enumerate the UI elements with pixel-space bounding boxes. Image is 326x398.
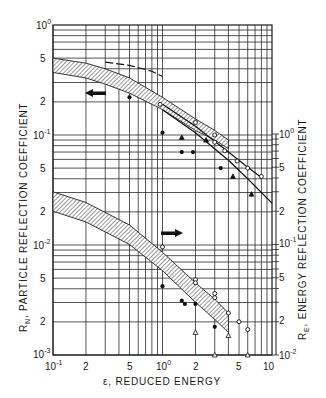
svg-text:5: 5: [279, 272, 285, 283]
open-circle-marker: [213, 133, 217, 137]
svg-text:100: 100: [156, 359, 171, 372]
triangle-marker: [226, 333, 231, 338]
filled-circle-marker: [213, 325, 217, 329]
open-circle-marker: [158, 102, 162, 106]
open-circle-marker: [246, 328, 250, 332]
svg-text:10-3: 10-3: [33, 347, 50, 360]
open-circle-marker: [213, 296, 217, 300]
arrow-right-icon: [161, 229, 183, 237]
right-axis-title: RE, ENERGY REFLECTION COEFFICIENT: [297, 119, 310, 340]
svg-text:2: 2: [279, 315, 285, 326]
svg-text:10: 10: [263, 361, 275, 372]
filled-circle-marker: [193, 302, 197, 306]
shaded-bands: [53, 58, 228, 332]
filled-circle-marker: [219, 166, 223, 170]
svg-text:100: 100: [36, 18, 51, 31]
theory-curve: [163, 110, 273, 204]
open-circle-marker: [226, 311, 230, 315]
triangle-marker: [193, 330, 198, 335]
svg-text:5: 5: [127, 361, 133, 372]
svg-text:10-1: 10-1: [279, 236, 296, 249]
open-circle-marker: [161, 245, 165, 249]
open-circle-marker: [259, 174, 263, 178]
svg-text:2: 2: [40, 206, 46, 217]
filled-circle-marker: [127, 95, 131, 99]
filled-circle-marker: [160, 284, 164, 288]
svg-text:2: 2: [83, 361, 89, 372]
svg-text:5: 5: [40, 53, 46, 64]
filled-circle-marker: [191, 150, 195, 154]
filled-circle-marker: [180, 150, 184, 154]
x-axis-title: ε, REDUCED ENERGY: [103, 376, 221, 387]
svg-text:5: 5: [236, 361, 242, 372]
svg-text:2: 2: [279, 206, 285, 217]
filled-circle-marker: [183, 302, 187, 306]
svg-text:5: 5: [279, 162, 285, 173]
triangle-marker: [231, 174, 236, 179]
open-circle-marker: [193, 281, 197, 285]
svg-text:10-2: 10-2: [33, 238, 50, 251]
left-axis-title: RN, PARTICLE REFLECTION COEFFICIENT: [18, 103, 31, 332]
svg-text:10-2: 10-2: [279, 348, 296, 361]
svg-text:10-1: 10-1: [45, 359, 62, 372]
svg-text:2: 2: [40, 96, 46, 107]
x-tick-labels: 10-1 2 5 100 2 5 10: [45, 359, 275, 372]
arrow-left-icon: [85, 89, 106, 97]
open-circle-marker: [213, 292, 217, 296]
open-circle-marker: [246, 166, 250, 170]
open-circle-marker: [235, 159, 239, 163]
open-circle-marker: [213, 140, 217, 144]
left-y-tick-labels: 100 5 2 10-1 5 2 10-2 5 2 10-3: [33, 18, 51, 360]
svg-text:2: 2: [40, 316, 46, 327]
open-circle-marker: [237, 320, 241, 324]
svg-text:2: 2: [193, 361, 199, 372]
svg-text:5: 5: [40, 163, 46, 174]
open-circle-marker: [193, 120, 197, 124]
svg-text:10-1: 10-1: [33, 128, 50, 141]
right-y-tick-labels: 100 5 2 10-1 5 2 10-2: [279, 127, 296, 361]
triangle-marker: [179, 135, 184, 140]
filled-circle-marker: [160, 131, 164, 135]
reflection-coefficient-chart: 10-1 2 5 100 2 5 10 ε, REDUCED ENERGY 10…: [0, 0, 326, 398]
open-circle-marker: [223, 149, 227, 153]
svg-text:5: 5: [40, 273, 46, 284]
svg-text:100: 100: [279, 127, 294, 140]
filled-circle-marker: [180, 299, 184, 303]
